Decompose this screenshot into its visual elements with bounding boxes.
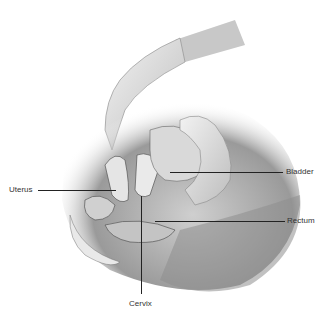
rectum-leader-line xyxy=(155,221,285,222)
cervix-leader-line xyxy=(141,196,142,294)
uterus-label: Uterus xyxy=(9,185,33,194)
cervix-label: Cervix xyxy=(129,299,152,308)
rectum-label: Rectum xyxy=(287,216,315,225)
uterus-leader-line xyxy=(38,190,116,191)
anatomical-illustration: Uterus Bladder Rectum Cervix xyxy=(0,0,329,314)
bladder-leader-line xyxy=(170,172,283,173)
illustration-artwork xyxy=(0,0,329,314)
bladder-label: Bladder xyxy=(286,167,314,176)
